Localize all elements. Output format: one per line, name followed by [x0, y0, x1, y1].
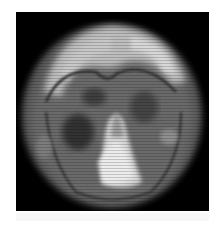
scanline-overlay: [16, 12, 209, 211]
caption-strip: [16, 213, 209, 221]
brain-scan-image: [16, 12, 209, 211]
